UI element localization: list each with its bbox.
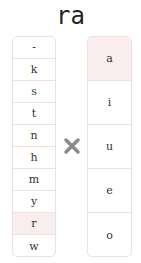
- consonant-option[interactable]: s: [13, 81, 55, 103]
- consonant-option[interactable]: y: [13, 191, 55, 213]
- vowel-option[interactable]: i: [88, 81, 131, 125]
- consonant-option[interactable]: k: [13, 59, 55, 81]
- vowel-column: a i u e o: [87, 36, 132, 257]
- vowel-option[interactable]: o: [88, 213, 131, 257]
- consonant-option-selected[interactable]: r: [13, 213, 55, 235]
- consonant-option[interactable]: w: [13, 235, 55, 257]
- times-icon: [63, 137, 81, 155]
- consonant-option[interactable]: -: [13, 37, 55, 59]
- consonant-option[interactable]: t: [13, 103, 55, 125]
- consonant-option[interactable]: m: [13, 169, 55, 191]
- consonant-column: - k s t n h m y r w: [12, 36, 56, 257]
- vowel-option[interactable]: e: [88, 169, 131, 213]
- result-title: ra: [0, 2, 141, 30]
- vowel-option[interactable]: u: [88, 125, 131, 169]
- vowel-option-selected[interactable]: a: [88, 37, 131, 81]
- consonant-option[interactable]: n: [13, 125, 55, 147]
- consonant-option[interactable]: h: [13, 147, 55, 169]
